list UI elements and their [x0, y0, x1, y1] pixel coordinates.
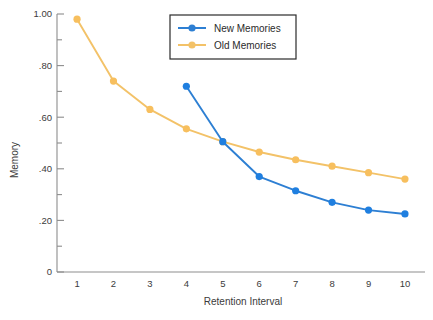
y-tick-label: 0: [47, 266, 52, 277]
y-tick-label: 1.00: [34, 8, 53, 19]
x-tick-label: 5: [220, 278, 225, 289]
x-tick-label: 9: [366, 278, 371, 289]
data-point-marker: [183, 83, 190, 90]
data-point-marker: [328, 163, 335, 170]
x-tick-label: 1: [74, 278, 79, 289]
x-tick-label: 2: [111, 278, 116, 289]
data-point-marker: [256, 148, 263, 155]
x-tick-label: 4: [184, 278, 189, 289]
y-tick-label: .40: [39, 163, 52, 174]
series-line: [186, 86, 405, 214]
legend-marker-swatch: [188, 24, 195, 31]
series-new-memories: [183, 83, 409, 218]
x-axis-tick-labels: 12345678910: [74, 278, 410, 289]
chart-container: 1.00.80.60.40.200 12345678910 Memory Ret…: [0, 0, 433, 320]
data-point-marker: [328, 199, 335, 206]
data-point-marker: [110, 77, 117, 84]
x-tick-label: 7: [293, 278, 298, 289]
x-tick-label: 10: [400, 278, 411, 289]
data-point-marker: [219, 138, 226, 145]
data-point-marker: [292, 187, 299, 194]
y-tick-label: .60: [39, 112, 52, 123]
legend-marker-swatch: [188, 41, 195, 48]
data-point-marker: [146, 106, 153, 113]
x-tick-label: 8: [329, 278, 334, 289]
legend-label: Old Memories: [214, 40, 276, 51]
legend: New MemoriesOld Memories: [170, 15, 296, 59]
data-point-marker: [401, 210, 408, 217]
data-point-marker: [183, 125, 190, 132]
data-point-marker: [73, 16, 80, 23]
memory-retention-line-chart: 1.00.80.60.40.200 12345678910 Memory Ret…: [0, 0, 433, 320]
data-point-marker: [401, 176, 408, 183]
legend-label: New Memories: [214, 23, 281, 34]
data-point-marker: [292, 156, 299, 163]
y-axis-title: Memory: [9, 142, 20, 178]
x-tick-label: 3: [147, 278, 152, 289]
y-axis-tick-labels: 1.00.80.60.40.200: [34, 8, 53, 277]
x-tick-label: 6: [257, 278, 262, 289]
data-point-marker: [256, 173, 263, 180]
data-point-marker: [365, 169, 372, 176]
y-tick-label: .20: [39, 215, 52, 226]
x-axis-title: Retention Interval: [204, 296, 282, 307]
y-axis-minor-ticks: [57, 40, 62, 246]
data-point-marker: [365, 206, 372, 213]
y-tick-label: .80: [39, 60, 52, 71]
